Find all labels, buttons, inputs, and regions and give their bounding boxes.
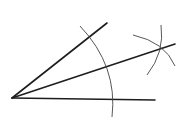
- upper-ray: [12, 23, 107, 98]
- base-ray: [12, 98, 155, 100]
- bisector-ray: [12, 44, 175, 98]
- geometry-diagram: [0, 0, 187, 122]
- angle-bisector-figure: [0, 0, 187, 122]
